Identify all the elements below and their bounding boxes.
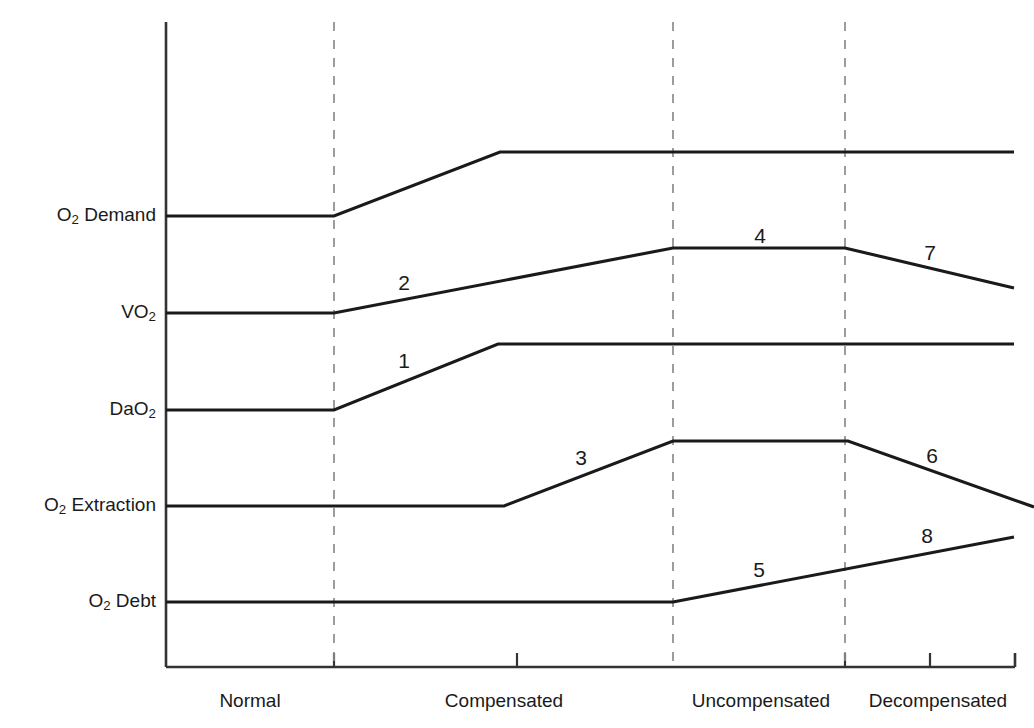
oxygen-dynamics-diagram: O2 DemandVO2DaO2O2 ExtractionO2 Debt Nor… — [0, 0, 1034, 728]
subscript: 2 — [149, 406, 156, 421]
subscript: 2 — [103, 598, 110, 613]
y-label-text: VO2 — [121, 301, 156, 322]
subscript: 2 — [71, 212, 78, 227]
x-axis-label-decompensated: Decompensated — [818, 691, 1034, 710]
x-axis-label-compensated: Compensated — [384, 691, 624, 710]
subscript: 2 — [149, 309, 156, 324]
series-line-vo2 — [166, 248, 1014, 313]
series-line-o2-extraction — [166, 441, 1034, 507]
y-axis-label-o2-debt: O2 Debt — [88, 591, 156, 612]
y-label-text: O2 Demand — [57, 204, 156, 225]
segment-number-6: 6 — [926, 445, 938, 466]
y-axis-label-o2-extraction: O2 Extraction — [44, 495, 156, 516]
segment-number-3: 3 — [575, 447, 587, 468]
y-axis-label-o2-demand: O2 Demand — [57, 205, 156, 226]
series-line-dao2 — [166, 344, 1014, 410]
data-series-lines — [166, 152, 1034, 602]
plot-canvas — [0, 0, 1034, 728]
segment-number-4: 4 — [754, 225, 766, 246]
series-line-o2-debt — [166, 537, 1014, 602]
series-line-o2-demand — [166, 152, 1014, 216]
y-axis-label-dao2: DaO2 — [110, 399, 156, 420]
x-axis-label-normal: Normal — [130, 691, 370, 710]
subscript: 2 — [59, 502, 66, 517]
y-axis-label-vo2: VO2 — [121, 302, 156, 323]
segment-number-8: 8 — [921, 525, 933, 546]
segment-number-2: 2 — [398, 272, 410, 293]
y-label-text: O2 Debt — [88, 590, 156, 611]
segment-number-5: 5 — [753, 559, 765, 580]
segment-number-1: 1 — [398, 350, 410, 371]
y-label-text: O2 Extraction — [44, 494, 156, 515]
segment-number-7: 7 — [924, 242, 936, 263]
y-label-text: DaO2 — [110, 398, 156, 419]
